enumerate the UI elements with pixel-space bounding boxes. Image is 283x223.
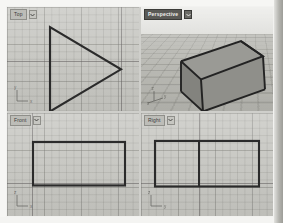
axis-gizmo-icon-front: z x [13,190,35,210]
window-right-frame [274,0,283,223]
axis-gizmo-icon-right: z y [147,190,169,210]
svg-text:z: z [152,86,155,91]
rectangle-with-divider [155,140,259,186]
chevron-down-icon[interactable] [33,116,41,125]
axis-gizmo-icon-perspective: z y x [147,85,169,105]
axis-gizmo-icon-top: y x [13,85,35,105]
viewport-label-front[interactable]: Front [10,115,31,126]
svg-text:x: x [30,204,33,209]
viewport-right[interactable]: Right z y [141,113,273,217]
svg-text:z: z [14,190,17,195]
viewport-label-right[interactable]: Right [144,115,165,126]
viewport-title-right[interactable]: Right [144,115,175,126]
window-bottom-margin [0,217,283,223]
viewport-title-top[interactable]: Top [10,9,37,20]
viewport-label-perspective[interactable]: Perspective [144,9,182,20]
triangle-profile [50,27,121,110]
viewport-front[interactable]: Front z x [7,113,139,217]
viewport-top[interactable]: Top y x [7,7,139,111]
viewport-perspective[interactable]: Perspective z y x [141,7,273,111]
viewport-title-perspective[interactable]: Perspective [144,9,192,20]
chevron-down-icon[interactable] [29,10,37,19]
chevron-down-icon[interactable] [184,10,192,19]
window-top-margin [0,0,283,6]
chevron-down-icon[interactable] [167,116,175,125]
svg-text:z: z [148,190,151,195]
viewport-label-top[interactable]: Top [10,9,27,20]
svg-text:y: y [164,94,167,99]
viewport-grid: Top y x [7,7,273,216]
viewport-title-front[interactable]: Front [10,115,41,126]
svg-text:y: y [14,85,17,90]
cad-application-window: Top y x [0,0,283,223]
svg-text:y: y [164,204,167,209]
svg-text:x: x [30,99,33,104]
window-left-margin [0,0,6,223]
rectangle-profile [33,141,125,184]
